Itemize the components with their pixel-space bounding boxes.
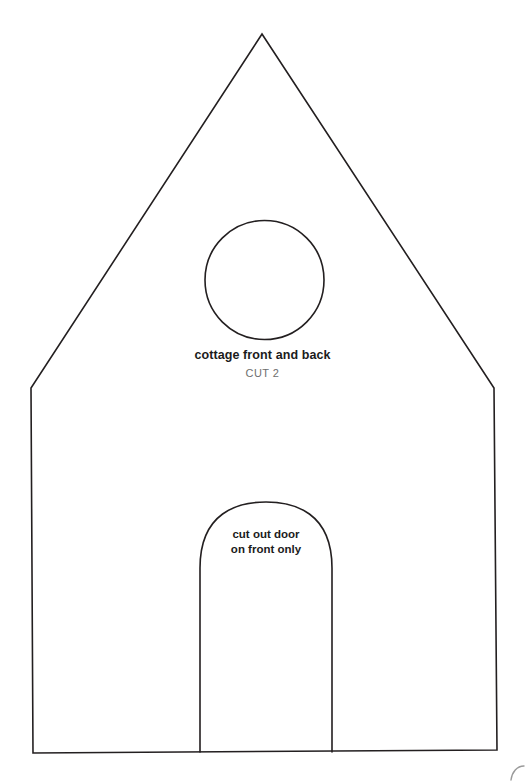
paper-background: [0, 0, 525, 784]
cottage-template-drawing: [0, 0, 525, 784]
